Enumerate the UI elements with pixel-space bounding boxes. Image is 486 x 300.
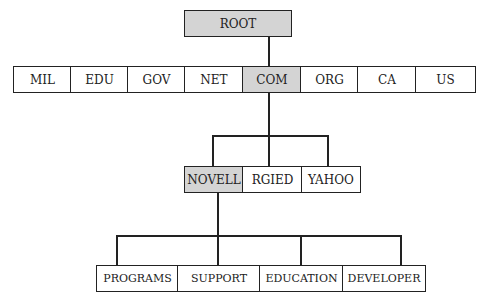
node-label: MIL	[30, 73, 55, 87]
connector-line	[268, 37, 270, 66]
node-label: RGIED	[252, 173, 294, 187]
connector-line	[116, 235, 401, 237]
node-net: NET	[184, 66, 244, 93]
node-developer: DEVELOPER	[342, 265, 426, 292]
node-education: EDUCATION	[259, 265, 344, 292]
node-label: EDU	[85, 73, 114, 87]
node-org: ORG	[300, 66, 359, 93]
node-mil: MIL	[13, 66, 72, 93]
node-rgied: RGIED	[242, 166, 303, 193]
node-label: GOV	[143, 73, 171, 87]
node-ca: CA	[357, 66, 417, 93]
connector-line	[300, 235, 302, 265]
node-programs: PROGRAMS	[96, 265, 179, 292]
node-label: NOVELL	[187, 173, 241, 187]
node-label: EDUCATION	[265, 272, 337, 285]
connector-line	[116, 235, 118, 265]
node-label: ORG	[315, 73, 343, 87]
node-label: DEVELOPER	[348, 272, 421, 285]
node-label: CA	[378, 73, 396, 87]
connector-line	[217, 193, 219, 236]
connector-line	[327, 135, 329, 167]
node-label: US	[436, 73, 454, 87]
node-gov: GOV	[127, 66, 186, 93]
node-edu: EDU	[70, 66, 129, 93]
node-label: COM	[256, 73, 287, 87]
node-support: SUPPORT	[177, 265, 261, 292]
node-us: US	[415, 66, 476, 93]
node-label: NET	[200, 73, 227, 87]
node-label: YAHOO	[308, 173, 354, 187]
node-label: PROGRAMS	[103, 272, 172, 285]
node-root: ROOT	[184, 10, 292, 37]
connector-line	[212, 135, 214, 167]
connector-line	[400, 235, 402, 265]
connector-line	[268, 135, 270, 167]
node-yahoo: YAHOO	[301, 166, 361, 193]
node-com: COM	[242, 66, 302, 93]
node-label: ROOT	[220, 17, 257, 31]
node-label: SUPPORT	[191, 272, 247, 285]
connector-line	[217, 235, 219, 265]
connector-line	[212, 135, 329, 137]
connector-line	[268, 93, 270, 136]
node-novell: NOVELL	[184, 166, 244, 193]
